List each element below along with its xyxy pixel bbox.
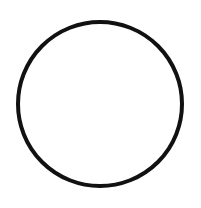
circle-graphic	[0, 0, 201, 208]
circle-outline	[18, 22, 182, 186]
canvas	[0, 0, 201, 208]
